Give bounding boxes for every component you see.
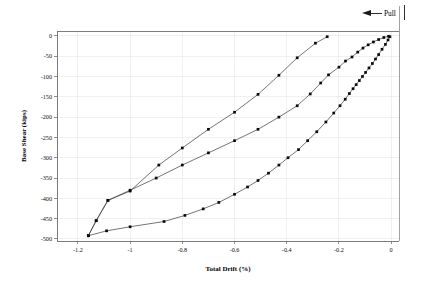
data-point-marker <box>207 152 210 155</box>
y-tick-label: -100 <box>41 73 52 80</box>
data-point-marker <box>351 56 354 59</box>
data-point-marker <box>348 92 351 95</box>
data-point-marker <box>157 164 160 167</box>
data-point-marker <box>181 147 184 150</box>
y-tick-label: -500 <box>41 235 52 242</box>
data-point-marker <box>267 172 270 175</box>
data-point-marker <box>377 38 380 41</box>
data-point-marker <box>278 164 281 167</box>
data-point-marker <box>181 164 184 167</box>
data-point-marker <box>296 56 299 59</box>
y-tick-label: -350 <box>41 174 52 181</box>
data-point-marker <box>309 93 312 96</box>
data-point-marker <box>352 87 355 90</box>
data-point-marker <box>129 225 132 228</box>
x-tick-label: -1 <box>128 246 133 253</box>
data-point-marker <box>107 199 110 202</box>
x-axis-title: Total Drift (%) <box>205 265 251 273</box>
data-point-marker <box>218 201 221 204</box>
data-point-marker <box>358 79 361 82</box>
data-point-marker <box>184 214 187 217</box>
x-tick-label: -0.8 <box>177 246 187 253</box>
data-point-marker <box>95 219 98 222</box>
data-point-marker <box>202 208 205 211</box>
data-point-marker <box>339 104 342 107</box>
y-tick-label: -450 <box>41 215 52 222</box>
y-tick-label: -300 <box>41 154 52 161</box>
y-tick-label: -200 <box>41 113 52 120</box>
data-point-marker <box>278 116 281 119</box>
data-point-marker <box>327 74 330 77</box>
data-point-marker <box>257 128 260 131</box>
data-point-marker <box>361 75 364 78</box>
data-point-marker <box>287 156 290 159</box>
y-tick-label: 0 <box>49 32 52 39</box>
data-point-marker <box>332 112 335 115</box>
data-point-marker <box>105 230 108 233</box>
y-tick-label: -50 <box>44 52 52 59</box>
data-point-marker <box>344 98 347 101</box>
data-point-marker <box>362 47 365 50</box>
data-point-marker <box>371 62 374 65</box>
data-point-marker <box>306 139 309 142</box>
data-point-marker <box>278 74 281 77</box>
y-tick-label: -150 <box>41 93 52 100</box>
data-point-marker <box>367 43 370 46</box>
data-point-marker <box>233 111 236 114</box>
data-point-marker <box>87 234 90 237</box>
data-point-marker <box>297 148 300 151</box>
chart-canvas: 0-50-100-150-200-250-300-350-400-450-500… <box>0 0 423 284</box>
data-point-marker <box>364 71 367 74</box>
data-point-marker <box>296 104 299 107</box>
data-point-marker <box>377 53 380 56</box>
data-point-marker <box>355 83 358 86</box>
y-tick-label: -250 <box>41 134 52 141</box>
x-tick-label: 0 <box>390 246 393 253</box>
data-point-marker <box>356 51 359 54</box>
x-tick-label: -1.2 <box>73 246 83 253</box>
data-point-marker <box>163 220 166 223</box>
data-point-marker <box>384 43 387 46</box>
data-point-marker <box>233 139 236 142</box>
data-point-marker <box>155 177 158 180</box>
y-tick-label: -400 <box>41 195 52 202</box>
data-point-marker <box>383 36 386 39</box>
x-tick-label: -0.4 <box>282 246 292 253</box>
data-point-marker <box>319 82 322 85</box>
y-axis-title: Base Shear (kips) <box>20 109 28 162</box>
pull-label: Pull <box>384 9 396 18</box>
data-point-marker <box>381 48 384 51</box>
data-point-marker <box>368 67 371 70</box>
data-point-marker <box>338 66 341 69</box>
data-point-marker <box>207 128 210 131</box>
data-point-marker <box>325 121 328 124</box>
data-point-marker <box>233 193 236 196</box>
data-point-marker <box>129 190 132 193</box>
data-point-marker <box>257 179 260 182</box>
data-point-marker <box>387 39 390 42</box>
x-tick-label: -0.6 <box>230 246 240 253</box>
data-point-marker <box>257 93 260 96</box>
data-point-marker <box>344 60 347 63</box>
data-point-marker <box>387 35 390 38</box>
data-point-marker <box>374 58 377 61</box>
data-point-marker <box>315 130 318 133</box>
data-point-marker <box>326 35 329 38</box>
data-point-marker <box>314 42 317 45</box>
data-point-marker <box>372 41 375 44</box>
data-point-marker <box>246 186 249 189</box>
x-tick-label: -0.2 <box>334 246 344 253</box>
base-shear-vs-drift-chart: 0-50-100-150-200-250-300-350-400-450-500… <box>0 0 423 284</box>
